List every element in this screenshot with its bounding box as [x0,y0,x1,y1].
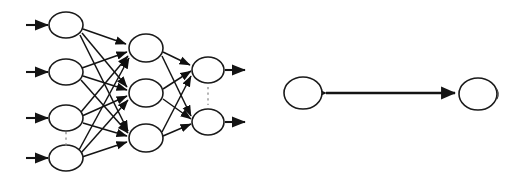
edge-i4-h1 [79,58,129,150]
input-node-4[interactable] [49,145,83,171]
hidden-node-3[interactable] [129,124,163,152]
hidden-layer-nodes [129,34,163,152]
output-layer-nodes [192,57,224,135]
edge-h1-o1 [163,52,190,65]
input-arrows-group [26,25,48,158]
diagram-canvas [0,0,519,176]
hidden-node-2[interactable] [129,79,163,107]
input-node-1[interactable] [49,12,83,38]
hidden-to-output-edges [162,52,191,136]
right-diagram-group [284,77,498,110]
edge-i4-h2 [81,100,128,153]
edge-i3-h2 [82,96,127,116]
output-arrows-group [225,70,245,122]
pair-node-left[interactable] [284,77,322,109]
output-node-2[interactable] [192,109,224,135]
pair-node-right[interactable] [459,78,497,110]
left-diagram-group [26,12,245,171]
hidden-node-1[interactable] [129,34,163,62]
input-layer-nodes [49,12,83,171]
output-node-1[interactable] [192,57,224,83]
input-node-3[interactable] [49,105,83,131]
input-to-hidden-edges [79,29,129,157]
figure-root [0,0,519,176]
edge-h3-o2 [163,124,191,136]
input-node-2[interactable] [49,59,83,85]
